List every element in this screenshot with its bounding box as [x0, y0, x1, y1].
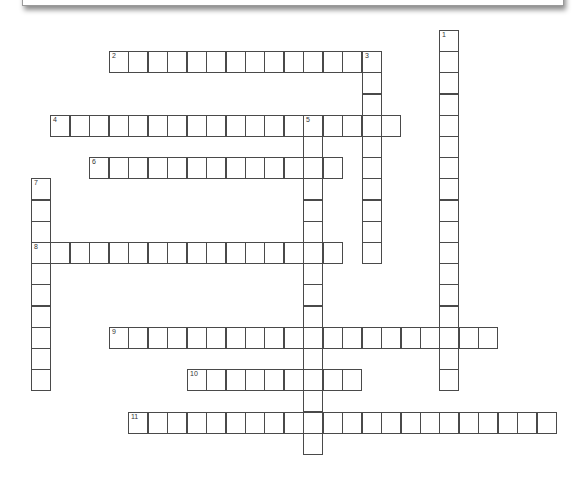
crossword-cell[interactable]: [420, 412, 440, 434]
crossword-cell[interactable]: [226, 412, 246, 434]
crossword-cell[interactable]: [323, 51, 343, 73]
crossword-cell[interactable]: [31, 284, 51, 306]
crossword-cell[interactable]: [264, 115, 284, 137]
crossword-cell[interactable]: [187, 157, 207, 179]
crossword-cell[interactable]: 4: [50, 115, 70, 137]
crossword-cell[interactable]: [245, 115, 265, 137]
crossword-cell[interactable]: [264, 157, 284, 179]
crossword-cell[interactable]: [439, 115, 459, 137]
crossword-cell[interactable]: [167, 51, 187, 73]
crossword-cell[interactable]: 8: [31, 242, 51, 264]
crossword-cell[interactable]: [264, 327, 284, 349]
crossword-cell[interactable]: [31, 327, 51, 349]
crossword-cell[interactable]: [264, 369, 284, 391]
crossword-cell[interactable]: [303, 242, 323, 264]
crossword-cell[interactable]: [206, 157, 226, 179]
crossword-cell[interactable]: [70, 242, 90, 264]
crossword-cell[interactable]: [362, 94, 382, 116]
crossword-cell[interactable]: [284, 412, 304, 434]
crossword-cell[interactable]: [226, 51, 246, 73]
crossword-cell[interactable]: [89, 115, 109, 137]
crossword-cell[interactable]: [342, 369, 362, 391]
crossword-cell[interactable]: [439, 136, 459, 158]
crossword-cell[interactable]: [167, 412, 187, 434]
crossword-cell[interactable]: [245, 327, 265, 349]
crossword-cell[interactable]: 6: [89, 157, 109, 179]
crossword-cell[interactable]: [439, 412, 459, 434]
crossword-cell[interactable]: 10: [187, 369, 207, 391]
crossword-cell[interactable]: [323, 115, 343, 137]
crossword-cell[interactable]: [167, 242, 187, 264]
crossword-cell[interactable]: [128, 327, 148, 349]
crossword-cell[interactable]: [362, 157, 382, 179]
crossword-cell[interactable]: [148, 51, 168, 73]
crossword-cell[interactable]: [206, 412, 226, 434]
crossword-cell[interactable]: [245, 369, 265, 391]
crossword-cell[interactable]: [284, 51, 304, 73]
crossword-cell[interactable]: [31, 221, 51, 243]
crossword-cell[interactable]: [109, 242, 129, 264]
crossword-cell[interactable]: [439, 221, 459, 243]
crossword-cell[interactable]: [303, 136, 323, 158]
crossword-cell[interactable]: [284, 327, 304, 349]
crossword-cell[interactable]: [439, 306, 459, 328]
crossword-cell[interactable]: [187, 115, 207, 137]
crossword-cell[interactable]: [303, 51, 323, 73]
crossword-cell[interactable]: [478, 327, 498, 349]
crossword-cell[interactable]: [148, 157, 168, 179]
crossword-cell[interactable]: [206, 327, 226, 349]
crossword-cell[interactable]: [226, 242, 246, 264]
crossword-cell[interactable]: [323, 327, 343, 349]
crossword-cell[interactable]: [226, 115, 246, 137]
crossword-cell[interactable]: [439, 178, 459, 200]
crossword-cell[interactable]: [420, 327, 440, 349]
crossword-cell[interactable]: [381, 327, 401, 349]
crossword-cell[interactable]: [284, 115, 304, 137]
crossword-cell[interactable]: [31, 306, 51, 328]
crossword-cell[interactable]: [303, 327, 323, 349]
crossword-cell[interactable]: [362, 200, 382, 222]
crossword-cell[interactable]: [206, 242, 226, 264]
crossword-cell[interactable]: 3: [362, 51, 382, 73]
crossword-cell[interactable]: [187, 242, 207, 264]
crossword-cell[interactable]: [303, 348, 323, 370]
crossword-cell[interactable]: [303, 306, 323, 328]
crossword-cell[interactable]: [31, 348, 51, 370]
crossword-cell[interactable]: [303, 390, 323, 412]
crossword-cell[interactable]: [323, 242, 343, 264]
crossword-cell[interactable]: [128, 157, 148, 179]
crossword-cell[interactable]: [109, 115, 129, 137]
crossword-cell[interactable]: [342, 327, 362, 349]
crossword-cell[interactable]: 9: [109, 327, 129, 349]
crossword-cell[interactable]: [264, 51, 284, 73]
crossword-cell[interactable]: [362, 221, 382, 243]
crossword-cell[interactable]: [167, 115, 187, 137]
crossword-cell[interactable]: [187, 327, 207, 349]
crossword-cell[interactable]: [381, 115, 401, 137]
crossword-cell[interactable]: [303, 412, 323, 434]
crossword-cell[interactable]: [245, 412, 265, 434]
crossword-cell[interactable]: [303, 369, 323, 391]
crossword-cell[interactable]: [187, 412, 207, 434]
crossword-cell[interactable]: [70, 115, 90, 137]
crossword-cell[interactable]: [303, 157, 323, 179]
crossword-cell[interactable]: [439, 157, 459, 179]
crossword-cell[interactable]: [362, 115, 382, 137]
crossword-cell[interactable]: [128, 115, 148, 137]
crossword-cell[interactable]: [226, 369, 246, 391]
crossword-cell[interactable]: [303, 433, 323, 455]
crossword-cell[interactable]: [148, 242, 168, 264]
crossword-cell[interactable]: [303, 178, 323, 200]
crossword-cell[interactable]: [206, 51, 226, 73]
crossword-cell[interactable]: [206, 115, 226, 137]
crossword-cell[interactable]: [264, 412, 284, 434]
crossword-cell[interactable]: [342, 51, 362, 73]
crossword-cell[interactable]: [439, 369, 459, 391]
crossword-cell[interactable]: [148, 412, 168, 434]
crossword-cell[interactable]: [148, 327, 168, 349]
crossword-cell[interactable]: [342, 115, 362, 137]
crossword-cell[interactable]: [362, 136, 382, 158]
crossword-cell[interactable]: [226, 157, 246, 179]
crossword-cell[interactable]: [31, 263, 51, 285]
crossword-cell[interactable]: [245, 157, 265, 179]
